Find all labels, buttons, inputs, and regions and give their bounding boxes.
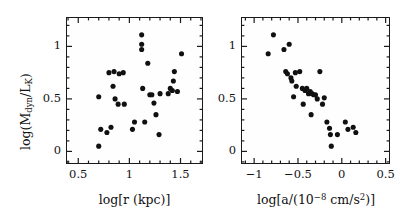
data-point [104, 130, 109, 135]
data-point [142, 119, 147, 124]
data-point [322, 95, 327, 100]
x-tick-label: −1 [246, 169, 263, 181]
data-point [351, 125, 356, 130]
left-scatter-panel [66, 17, 203, 164]
data-point [353, 130, 358, 135]
y-tick-label: 1 [54, 41, 61, 53]
data-point [328, 132, 333, 137]
y-tick-label: 0 [54, 146, 61, 158]
data-point [329, 144, 334, 149]
y-tick-label: 1 [229, 41, 236, 53]
data-point [179, 51, 184, 56]
data-point [139, 47, 144, 52]
data-point [122, 102, 127, 107]
data-point [153, 112, 158, 117]
data-point [294, 84, 299, 89]
data-point [130, 127, 135, 132]
data-point [271, 32, 276, 37]
data-point [171, 79, 176, 84]
right-x-axis-label: log[a/(10−8 cm/s2)] [236, 193, 396, 207]
data-point [156, 132, 161, 137]
x-tick-label: 1.5 [171, 169, 189, 181]
data-point [297, 69, 302, 74]
data-point [345, 127, 350, 132]
data-point [158, 91, 163, 96]
y-axis-label: log(Mdyn/LK) [18, 73, 34, 150]
data-point [110, 84, 115, 89]
y-tick-label: 0.5 [43, 93, 61, 105]
x-tick-label: 0.5 [376, 169, 394, 181]
data-point [266, 51, 271, 56]
data-point [287, 42, 292, 47]
data-point [335, 132, 340, 137]
right-scatter-panel [241, 17, 390, 164]
right-panel-plot-area [241, 17, 390, 164]
data-point [145, 61, 150, 66]
figure-root: log(Mdyn/LK) 0.511.5 00.51 log[r (kpc)] … [0, 0, 420, 223]
data-point [139, 42, 144, 47]
data-point [96, 94, 101, 99]
data-point [116, 102, 121, 107]
data-point [108, 125, 113, 130]
data-point [139, 32, 144, 37]
data-point [327, 126, 332, 131]
y-tick-label: 0.5 [218, 93, 236, 105]
left-x-axis-label: log[r (kpc)] [66, 193, 203, 207]
data-point [166, 91, 171, 96]
data-point [140, 86, 145, 91]
data-point [309, 112, 314, 117]
data-point [343, 119, 348, 124]
data-point [291, 94, 296, 99]
data-point [281, 47, 286, 52]
data-point [175, 89, 180, 94]
data-point [324, 119, 329, 124]
data-point [289, 79, 294, 84]
data-point [121, 70, 126, 75]
y-axis-label-text: log(Mdyn/LK) [18, 73, 33, 150]
left-panel-plot-area [66, 17, 203, 164]
data-point [285, 71, 290, 76]
data-point [98, 127, 103, 132]
data-point [293, 70, 298, 75]
x-tick-label: −0.5 [284, 169, 312, 181]
x-tick-label: 0 [338, 169, 345, 181]
data-point [106, 70, 111, 75]
data-point [113, 96, 118, 101]
right-x-axis-label-text: log[a/(10−8 cm/s2)] [257, 192, 375, 207]
x-tick-label: 0.5 [69, 169, 87, 181]
data-point [112, 69, 117, 74]
data-point [96, 144, 101, 149]
data-point [132, 119, 137, 124]
data-point [172, 69, 177, 74]
y-tick-label: 0 [229, 146, 236, 158]
data-point [151, 101, 156, 106]
data-point [320, 102, 325, 107]
data-point [315, 96, 320, 101]
data-point [301, 102, 306, 107]
data-point [317, 69, 322, 74]
data-point [149, 92, 154, 97]
x-tick-label: 1 [126, 169, 133, 181]
data-point [170, 88, 175, 93]
left-x-axis-label-text: log[r (kpc)] [99, 192, 171, 207]
